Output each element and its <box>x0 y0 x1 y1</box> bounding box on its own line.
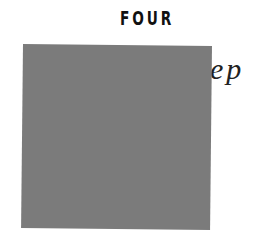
gray-redaction-block <box>21 44 212 230</box>
chapter-number: FOUR <box>120 7 160 29</box>
